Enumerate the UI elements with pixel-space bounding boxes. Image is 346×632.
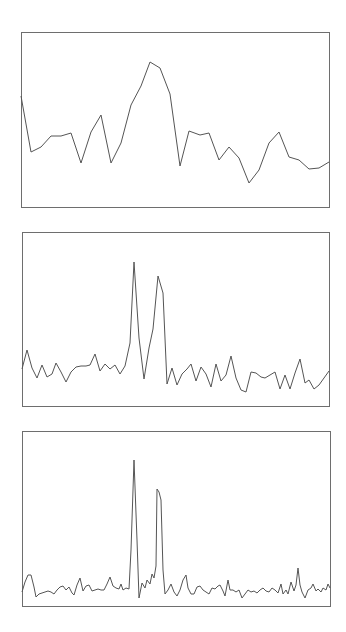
line-chart-3: [0, 0, 346, 632]
plot-frame-3: [23, 432, 331, 607]
signal-trace-3: [22, 460, 330, 598]
chart-panel-3: [0, 0, 346, 632]
